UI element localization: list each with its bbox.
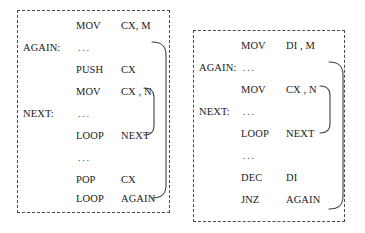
row-operand: CX, M: [121, 15, 151, 37]
row-operand: CX , N: [286, 79, 317, 101]
code-row: AGAIN: ...: [18, 37, 169, 59]
code-row: MOV CX, M: [18, 15, 169, 37]
row-mnemonic: PUSH: [76, 59, 103, 81]
row-mnemonic: MOV: [241, 79, 266, 101]
row-operand: DI , M: [286, 35, 315, 57]
row-operand: CX: [121, 59, 136, 81]
row-ellipsis: ...: [243, 57, 256, 79]
code-row: DEC DI: [194, 167, 344, 189]
code-row: LOOP NEXT: [18, 125, 169, 147]
row-mnemonic: MOV: [76, 15, 101, 37]
code-row: MOV CX , N: [194, 79, 344, 101]
code-row: LOOP AGAIN: [18, 188, 169, 210]
code-panel-push-pop: MOV CX, M AGAIN: ... PUSH CX MOV CX , N …: [17, 10, 170, 213]
row-label: NEXT:: [23, 103, 54, 125]
row-operand: AGAIN: [121, 188, 155, 210]
row-mnemonic: MOV: [76, 81, 101, 103]
row-mnemonic: LOOP: [241, 123, 269, 145]
row-operand: AGAIN: [286, 189, 320, 211]
code-row: JNZ AGAIN: [194, 189, 344, 211]
row-label: AGAIN:: [199, 57, 236, 79]
row-ellipsis: ...: [78, 147, 91, 169]
code-row: ...: [18, 147, 169, 169]
row-operand: CX , N: [121, 81, 152, 103]
row-mnemonic: LOOP: [76, 188, 104, 210]
row-label: NEXT:: [199, 101, 230, 123]
code-row: ...: [194, 145, 344, 167]
code-row: NEXT: ...: [194, 101, 344, 123]
row-ellipsis: ...: [243, 101, 256, 123]
code-row: MOV CX , N: [18, 81, 169, 103]
code-row: PUSH CX: [18, 59, 169, 81]
assembly-nested-loop-figure: MOV CX, M AGAIN: ... PUSH CX MOV CX , N …: [0, 0, 365, 233]
code-panel-dec-jnz: MOV DI , M AGAIN: ... MOV CX , N NEXT: .…: [193, 30, 345, 222]
row-ellipsis: ...: [243, 145, 256, 167]
code-row: MOV DI , M: [194, 35, 344, 57]
row-ellipsis: ...: [78, 103, 91, 125]
row-label: AGAIN:: [23, 37, 60, 59]
code-row: AGAIN: ...: [194, 57, 344, 79]
row-operand: NEXT: [286, 123, 314, 145]
code-row: LOOP NEXT: [194, 123, 344, 145]
row-operand: NEXT: [121, 125, 149, 147]
row-mnemonic: MOV: [241, 35, 266, 57]
row-mnemonic: JNZ: [241, 189, 259, 211]
row-operand: DI: [286, 167, 297, 189]
row-mnemonic: LOOP: [76, 125, 104, 147]
row-mnemonic: DEC: [241, 167, 262, 189]
row-ellipsis: ...: [78, 37, 91, 59]
code-row: NEXT: ...: [18, 103, 169, 125]
